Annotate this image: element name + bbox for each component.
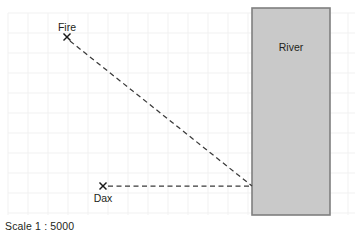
river-label: River [279, 41, 304, 53]
dax-label: Dax [94, 192, 113, 204]
river-shape [252, 8, 330, 215]
map-svg: River Fire Dax [0, 0, 359, 239]
fire-point-group: Fire [58, 21, 76, 41]
fire-label: Fire [58, 21, 76, 33]
scale-caption: Scale 1 : 5000 [5, 220, 74, 232]
map-diagram-canvas: River Fire Dax Scale 1 : 5000 [0, 0, 359, 239]
